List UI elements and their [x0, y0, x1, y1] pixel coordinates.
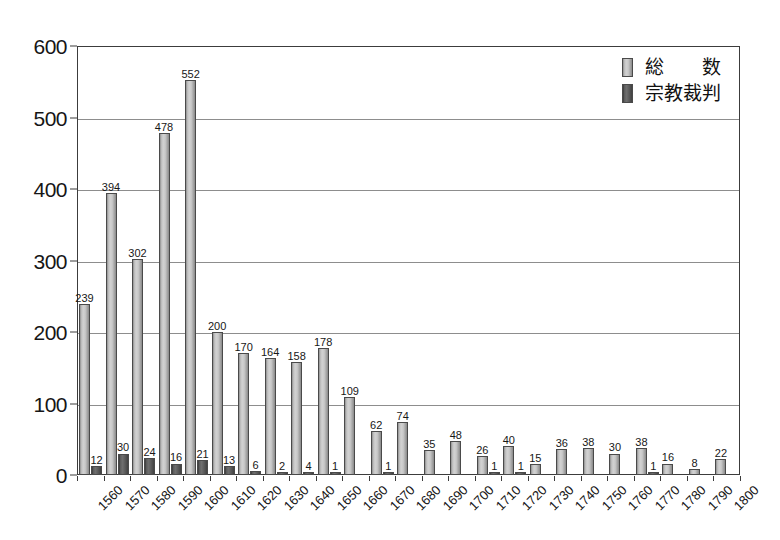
x-tick-mark: [740, 476, 741, 481]
x-tick-label: 1590: [175, 483, 205, 513]
x-tick-mark: [263, 476, 264, 481]
legend: 総 数 宗教裁判: [596, 46, 740, 114]
y-tick-mark: [70, 260, 77, 261]
x-tick-label: 1690: [440, 483, 470, 513]
x-tick-mark: [369, 476, 370, 481]
x-tick-mark: [236, 476, 237, 481]
y-tick-label: 500: [33, 107, 67, 128]
y-tick-label: 400: [33, 179, 67, 200]
legend-item-total: 総 数: [622, 54, 740, 80]
x-tick-label: 1580: [149, 483, 179, 513]
x-tick-label: 1680: [414, 483, 444, 513]
x-tick-mark: [581, 476, 582, 481]
x-tick-label: 1610: [228, 483, 258, 513]
x-tick-label: 1730: [546, 483, 576, 513]
x-tick-mark: [210, 476, 211, 481]
y-tick-label: 600: [33, 36, 67, 57]
gridline: [78, 405, 739, 406]
x-tick-label: 1790: [705, 483, 735, 513]
y-tick-mark: [70, 475, 77, 476]
x-tick-mark: [183, 476, 184, 481]
x-tick-mark: [289, 476, 290, 481]
x-tick-mark: [395, 476, 396, 481]
x-tick-mark: [316, 476, 317, 481]
x-tick-mark: [607, 476, 608, 481]
x-tick-mark: [77, 476, 78, 481]
y-tick-label: 200: [33, 322, 67, 343]
x-tick-mark: [448, 476, 449, 481]
x-tick-mark: [528, 476, 529, 481]
x-tick-mark: [475, 476, 476, 481]
bar-chart: 0100200300400500600 23912394303022447816…: [0, 0, 780, 540]
x-tick-mark: [157, 476, 158, 481]
y-axis: 0100200300400500600: [0, 46, 77, 475]
gridline: [78, 190, 739, 191]
x-tick-label: 1770: [652, 483, 682, 513]
x-tick-label: 1560: [95, 483, 125, 513]
x-tick-label: 1700: [467, 483, 497, 513]
y-tick-label: 0: [56, 465, 67, 486]
x-tick-label: 1740: [573, 483, 603, 513]
gridline: [78, 119, 739, 120]
gridline: [78, 262, 739, 263]
x-tick-label: 1650: [334, 483, 364, 513]
x-tick-label: 1750: [599, 483, 629, 513]
x-tick-mark: [687, 476, 688, 481]
legend-item-inquisition: 宗教裁判: [622, 80, 740, 106]
gridline: [78, 333, 739, 334]
x-tick-label: 1720: [520, 483, 550, 513]
x-tick-mark: [713, 476, 714, 481]
x-tick-mark: [660, 476, 661, 481]
x-tick-label: 1800: [732, 483, 762, 513]
x-tick-mark: [501, 476, 502, 481]
x-tick-mark: [342, 476, 343, 481]
x-tick-label: 1640: [308, 483, 338, 513]
y-tick-mark: [70, 403, 77, 404]
y-tick-label: 300: [33, 250, 67, 271]
y-tick-mark: [70, 332, 77, 333]
legend-label-total: 総 数: [645, 58, 721, 77]
y-tick-mark: [70, 46, 77, 47]
x-tick-mark: [422, 476, 423, 481]
x-tick-label: 1660: [361, 483, 391, 513]
x-tick-label: 1570: [122, 483, 152, 513]
x-axis: 1560157015801590160016101620163016401650…: [77, 476, 740, 540]
x-tick-label: 1670: [387, 483, 417, 513]
legend-swatch-inquisition-icon: [622, 84, 633, 103]
x-tick-label: 1620: [255, 483, 285, 513]
y-tick-label: 100: [33, 393, 67, 414]
x-tick-mark: [104, 476, 105, 481]
x-tick-label: 1630: [281, 483, 311, 513]
x-tick-label: 1780: [679, 483, 709, 513]
x-tick-label: 1600: [202, 483, 232, 513]
x-tick-mark: [130, 476, 131, 481]
legend-swatch-total-icon: [622, 58, 633, 77]
y-tick-mark: [70, 189, 77, 190]
x-tick-label: 1710: [493, 483, 523, 513]
x-tick-mark: [554, 476, 555, 481]
legend-label-inquisition: 宗教裁判: [645, 84, 721, 103]
y-tick-mark: [70, 117, 77, 118]
x-tick-label: 1760: [626, 483, 656, 513]
x-tick-mark: [634, 476, 635, 481]
